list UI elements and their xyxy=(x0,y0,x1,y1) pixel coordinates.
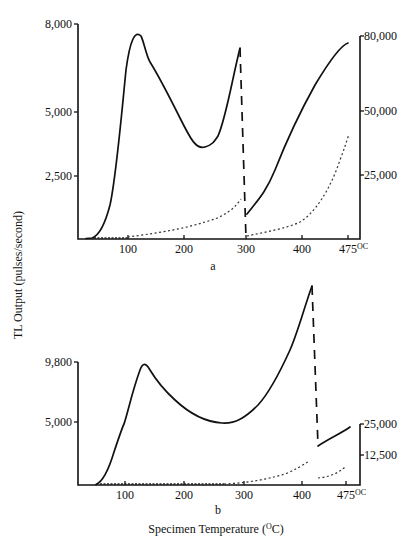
panel-a-glow-curve xyxy=(86,34,240,238)
panel-b-range-switch xyxy=(312,286,318,445)
panel-b-x-tick-label: 475 xyxy=(337,488,355,502)
panel-b-right-tick-label: 12,500 xyxy=(364,448,397,462)
panel-b: 9,800 5,000 25,000 12,500 100 200 300 40… xyxy=(45,286,397,517)
panel-b-right-tick-label: 25,000 xyxy=(364,417,397,431)
panel-b-left-tick-label: 9,800 xyxy=(45,355,72,369)
panel-a-left-tick-label: 2,500 xyxy=(45,169,72,183)
panel-a-right-tick-label: 80,000 xyxy=(364,29,397,43)
panel-a-x-tick-label: 475 xyxy=(339,242,357,256)
panel-a: 8,000 5,000 2,500 80,000 50,000 25,000 1… xyxy=(45,17,397,273)
panel-b-x-tick-label: 300 xyxy=(235,488,253,502)
x-axis-title: Specimen Temperature (OC) xyxy=(148,522,283,536)
figure: TL Output (pulses/second) 8,000 5,000 2,… xyxy=(0,0,412,547)
panel-a-right-tick-label: 50,000 xyxy=(364,104,397,118)
panel-b-x-unit: OC xyxy=(355,488,366,497)
panel-b-glow-curve xyxy=(96,286,312,485)
panel-a-range-switch xyxy=(240,48,246,238)
panel-b-glow-curve-high xyxy=(318,427,350,446)
panel-a-background-curve xyxy=(128,134,349,237)
panel-a-left-tick-label: 8,000 xyxy=(45,17,72,31)
panel-b-x-tick-label: 400 xyxy=(293,488,311,502)
panel-a-x-unit: OC xyxy=(357,242,368,251)
panel-a-right-tick-label: 25,000 xyxy=(364,168,397,182)
panel-a-glow-curve-high xyxy=(247,43,348,214)
panel-b-background-curve xyxy=(224,461,346,484)
panel-b-label: b xyxy=(215,503,221,517)
panel-b-left-tick-label: 5,000 xyxy=(45,415,72,429)
panel-b-x-tick-label: 200 xyxy=(175,488,193,502)
panel-a-left-tick-label: 5,000 xyxy=(45,105,72,119)
panel-a-x-tick-label: 300 xyxy=(237,242,255,256)
panel-a-x-tick-label: 200 xyxy=(175,242,193,256)
panel-b-x-tick-label: 100 xyxy=(116,488,134,502)
y-axis-title: TL Output (pulses/second) xyxy=(11,211,25,339)
panel-a-label: a xyxy=(210,259,216,273)
panel-a-x-tick-label: 100 xyxy=(119,242,137,256)
panel-a-x-tick-label: 400 xyxy=(293,242,311,256)
